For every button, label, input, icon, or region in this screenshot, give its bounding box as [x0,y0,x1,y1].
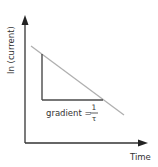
gradient-denominator: τ [92,114,97,123]
diagram-canvas: ln (current) Time gradient = 1 τ [0,0,158,167]
gradient-numerator: 1 [92,103,97,112]
x-axis-label: Time [129,152,151,162]
y-axis-arrowhead-icon [22,15,29,25]
y-axis-label: ln (current) [6,26,16,74]
decay-line [31,46,124,115]
x-axis-arrowhead-icon [138,140,148,147]
gradient-label: gradient = [46,108,92,118]
